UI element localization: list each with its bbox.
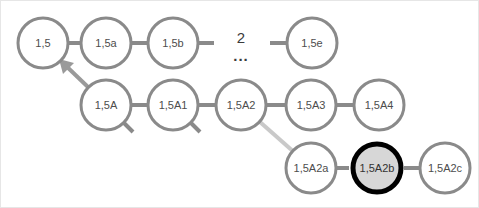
diagram-canvas: 1,5 1,5a 1,5b 1,5e 1,5A 1,5A1: [0, 0, 479, 208]
gap-number: 2: [237, 29, 245, 46]
node-1-5A2c[interactable]: 1,5A2c: [420, 143, 470, 193]
node-label: 1,5A2b: [360, 162, 395, 174]
node-1-5A2[interactable]: 1,5A2: [216, 80, 266, 130]
node-label: 1,5A2a: [294, 162, 330, 174]
node-1-5A3[interactable]: 1,5A3: [286, 80, 336, 130]
node-label: 1,5e: [301, 37, 322, 49]
gap-ellipsis: ...: [233, 47, 249, 64]
node-1-5A2a[interactable]: 1,5A2a: [286, 143, 336, 193]
graph-svg: 1,5 1,5a 1,5b 1,5e 1,5A 1,5A1: [1, 1, 479, 208]
node-label: 1,5: [35, 37, 50, 49]
node-1-5A1[interactable]: 1,5A1: [148, 80, 198, 130]
node-label: 1,5b: [162, 37, 183, 49]
sequence-gap-marker: 2 ...: [233, 29, 249, 64]
node-1-5A2b[interactable]: 1,5A2b: [353, 144, 401, 192]
node-label: 1,5A: [95, 99, 118, 111]
node-1-5b[interactable]: 1,5b: [148, 18, 198, 68]
node-label: 1,5A2: [227, 99, 256, 111]
node-label: 1,5A1: [159, 99, 188, 111]
node-label: 1,5A2c: [428, 162, 463, 174]
node-1-5A[interactable]: 1,5A: [81, 80, 131, 130]
node-label: 1,5A4: [365, 99, 394, 111]
node-1-5[interactable]: 1,5: [18, 18, 68, 68]
node-1-5A4[interactable]: 1,5A4: [354, 80, 404, 130]
node-1-5e[interactable]: 1,5e: [287, 18, 337, 68]
node-label: 1,5a: [95, 37, 117, 49]
node-label: 1,5A3: [297, 99, 326, 111]
edge-1-5A2-to-1-5A2a: [260, 122, 295, 153]
node-1-5a[interactable]: 1,5a: [81, 18, 131, 68]
